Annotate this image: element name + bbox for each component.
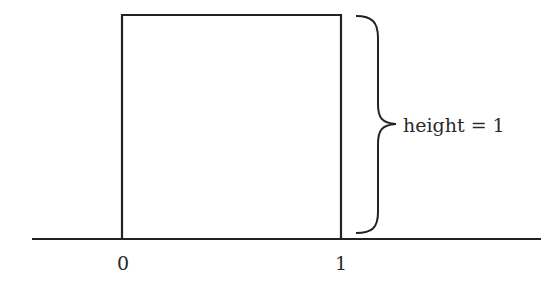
height-label: height = 1 (403, 114, 505, 136)
tick-label-1: 1 (335, 252, 347, 274)
diagram-canvas: height = 1 0 1 (0, 0, 558, 287)
unit-box (122, 15, 341, 239)
curly-brace (356, 16, 396, 233)
tick-label-0: 0 (117, 252, 129, 274)
